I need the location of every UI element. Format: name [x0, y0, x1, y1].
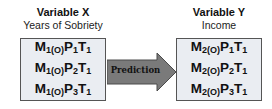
prediction-label: Prediction: [108, 65, 163, 75]
variable-x-box: M1(O)P1T1 M1(O)P2T1 M1(O)P3T1: [20, 38, 106, 101]
variable-y-header: Variable Y Income: [169, 6, 269, 31]
variable-y-subtitle: Income: [169, 19, 269, 31]
variable-x-row: M1(O)P2T1: [35, 59, 92, 80]
variable-y-box: M2(O)P1T1 M2(O)P2T1 M2(O)P3T1: [176, 38, 262, 101]
variable-x-row: M1(O)P3T1: [35, 80, 92, 101]
variable-x-header: Variable X Years of Sobriety: [13, 6, 113, 31]
variable-y-row: M2(O)P3T1: [191, 80, 248, 101]
variable-x-subtitle: Years of Sobriety: [13, 19, 113, 31]
variable-y-row: M2(O)P2T1: [191, 59, 248, 80]
variable-x-title: Variable X: [13, 6, 113, 19]
variable-x-row: M1(O)P1T1: [35, 38, 92, 59]
variable-y-row: M2(O)P1T1: [191, 38, 248, 59]
variable-y-title: Variable Y: [169, 6, 269, 19]
